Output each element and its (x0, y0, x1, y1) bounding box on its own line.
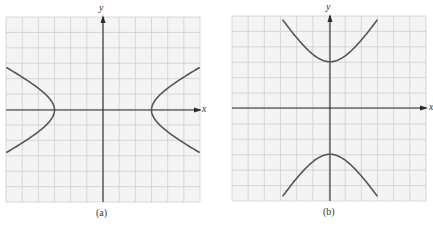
figure-a-caption: (a) (96, 207, 107, 218)
figure-b-vertical-hyperbola (232, 14, 428, 201)
figure-a-horizontal-hyperbola (6, 15, 202, 202)
figure-b-x-axis-label: x (429, 101, 433, 112)
figure-b-caption: (b) (323, 206, 335, 217)
figure-b-y-axis-label: y (326, 1, 330, 12)
figure-a-x-axis-label: x (202, 103, 206, 114)
figure-a-y-axis-label: y (99, 2, 103, 13)
